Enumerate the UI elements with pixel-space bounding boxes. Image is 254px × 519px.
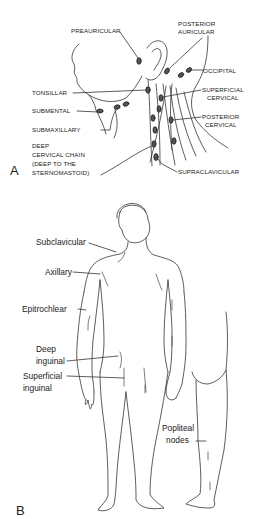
label-deep-cervical-line2: CERVICAL CHAIN	[32, 151, 85, 159]
label-deep-inguinal-line1: Deep	[36, 344, 56, 354]
label-superficial-cervical-line2: CERVICAL	[207, 94, 239, 102]
label-popliteal-line1: Popliteal	[162, 423, 194, 433]
label-deep-cervical-line4: STERNOMASTOID)	[32, 169, 89, 177]
label-posterior-cervical-line2: CERVICAL	[205, 121, 237, 129]
face-profile-outline	[72, 44, 96, 110]
label-submaxillary: SUBMAXILLARY	[32, 126, 81, 134]
label-subclavicular: Subclavicular	[36, 237, 86, 247]
lymph-node-illustration	[0, 0, 254, 519]
label-submental: SUBMENTAL	[32, 107, 70, 115]
label-deep-cervical-line1: DEEP	[32, 142, 49, 150]
label-superficial-inguinal-line1: Superficial	[23, 371, 62, 381]
label-superficial-cervical-line1: SUPERFICIAL	[202, 86, 244, 94]
label-deep-cervical-line3: (DEEP TO THE	[32, 160, 76, 168]
label-axillary: Axillary	[45, 267, 72, 277]
label-occipital: OCCIPITAL	[203, 67, 236, 75]
panel-letter-b: B	[16, 503, 25, 518]
label-epitrochlear: Epitrochlear	[22, 304, 67, 314]
label-popliteal-line2: nodes	[166, 435, 189, 445]
label-tonsillar: TONSILLAR	[32, 89, 67, 97]
label-supraclavicular: SUPRACLAVICULAR	[178, 168, 239, 176]
label-preauricular: PREAURICULAR	[71, 27, 121, 35]
label-posterior-auricular-line1: POSTERIOR	[178, 20, 215, 28]
head-outline	[119, 205, 150, 243]
label-deep-inguinal-line2: inguinal	[36, 356, 65, 366]
label-superficial-inguinal-line2: inguinal	[23, 383, 52, 393]
label-posterior-cervical-line1: POSTERIOR	[202, 113, 239, 121]
ear-outline	[146, 41, 167, 80]
panel-letter-a: A	[10, 163, 19, 178]
label-posterior-auricular-line2: AURICULAR	[178, 28, 215, 36]
